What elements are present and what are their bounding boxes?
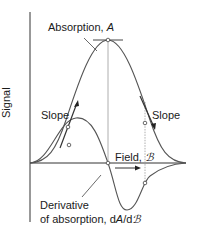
derivative-mid: /d bbox=[123, 213, 132, 225]
field-arrow-icon bbox=[135, 166, 141, 171]
left-slope-arrow-icon bbox=[74, 100, 79, 107]
field-symbol: ℬ bbox=[145, 151, 154, 163]
slope-left-text: Slope bbox=[41, 109, 69, 121]
absorption-symbol: A bbox=[107, 21, 114, 33]
field-label-prefix: Field, bbox=[115, 151, 145, 163]
derivative-label: Derivative of absorption, dA/dℬ bbox=[40, 198, 141, 226]
derivative-right-point bbox=[143, 181, 147, 185]
derivative-symbol-b: ℬ bbox=[132, 213, 141, 225]
slope-left-label: Slope bbox=[41, 110, 69, 121]
derivative-leader-line bbox=[82, 175, 101, 197]
derivative-label-line2: of absorption, dA/dℬ bbox=[40, 212, 141, 226]
zero-crossing-point bbox=[106, 161, 110, 165]
peak-point bbox=[106, 38, 110, 42]
right-slope-point bbox=[143, 121, 147, 125]
derivative-max-point bbox=[67, 143, 71, 147]
slope-right-text: Slope bbox=[152, 109, 180, 121]
y-axis-label-text: Signal bbox=[0, 87, 12, 118]
slope-right-label: Slope bbox=[152, 110, 180, 121]
y-axis-label: Signal bbox=[0, 87, 12, 118]
left-slope-point bbox=[66, 125, 70, 129]
absorption-label-prefix: Absorption, bbox=[48, 21, 107, 33]
absorption-label: Absorption, A bbox=[48, 22, 114, 33]
derivative-prefix: of absorption, d bbox=[40, 213, 116, 225]
field-label: Field, ℬ bbox=[115, 152, 154, 163]
derivative-label-line1: Derivative bbox=[40, 198, 141, 212]
